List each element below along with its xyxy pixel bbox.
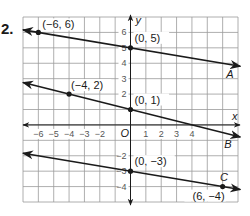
x-tick-label: 1 xyxy=(143,129,148,139)
y-tick-label: 6 xyxy=(121,27,126,37)
line-name-label: A xyxy=(225,68,233,80)
x-tick-label: 4 xyxy=(189,129,194,139)
y-tick-label: 4 xyxy=(121,58,126,68)
y-axis-label: y xyxy=(135,14,143,26)
line-C: (0, −3)(6, −4)C xyxy=(23,153,240,201)
point-label: (0, 1) xyxy=(135,94,161,106)
x-axis-label: x xyxy=(231,110,238,122)
x-tick-label: −3 xyxy=(79,129,89,139)
line-name-label: C xyxy=(220,171,228,183)
point-label: (0, −3) xyxy=(135,155,167,167)
y-tick-label: −4 xyxy=(116,182,126,192)
x-tick-label: −5 xyxy=(49,129,59,139)
point-marker xyxy=(128,169,133,174)
point-label: (6, −4) xyxy=(193,190,225,202)
y-tick-label: 2 xyxy=(121,89,126,99)
point-marker xyxy=(220,184,225,189)
lines: (−6, 6)(0, 5)A(−4, 2)(0, 1)B(0, −3)(6, −… xyxy=(23,18,240,201)
point-label: (0, 5) xyxy=(135,32,161,44)
y-tick-label: −2 xyxy=(116,151,126,161)
point-marker xyxy=(128,45,133,50)
point-label: (−6, 6) xyxy=(42,18,74,30)
line-name-label: B xyxy=(224,138,231,150)
x-tick-label: −4 xyxy=(64,129,74,139)
y-tick-label: −3 xyxy=(116,166,126,176)
x-tick-label: 2 xyxy=(159,129,164,139)
point-label: (−4, 2) xyxy=(71,79,103,91)
x-tick-label: −6 xyxy=(33,129,43,139)
point-marker xyxy=(128,107,133,112)
coordinate-plane: xy −6−5−4−3−2123465432−2−3−4O (−6, 6)(0,… xyxy=(0,0,250,216)
y-tick-label: 3 xyxy=(121,74,126,84)
line-A: (−6, 6)(0, 5)A xyxy=(23,18,240,79)
x-tick-label: −2 xyxy=(95,129,105,139)
line-B: (−4, 2)(0, 1)B xyxy=(23,79,240,150)
point-marker xyxy=(66,91,71,96)
x-tick-label: 3 xyxy=(174,129,179,139)
origin-label: O xyxy=(121,127,130,139)
point-marker xyxy=(36,30,41,35)
